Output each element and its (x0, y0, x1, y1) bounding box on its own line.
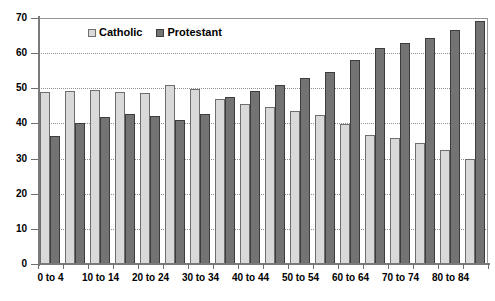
x-tick-1 (63, 264, 64, 269)
x-tick-8 (238, 264, 239, 269)
legend-entry-protestant: Protestant (156, 27, 221, 38)
x-tick-7 (213, 264, 214, 269)
chart-legend: Catholic Protestant (88, 27, 222, 38)
bar-catholic (240, 104, 250, 264)
bar-protestant (250, 91, 260, 264)
bar-catholic (315, 115, 325, 264)
bar-catholic (265, 107, 275, 264)
bar-catholic (190, 89, 200, 264)
legend-entry-catholic: Catholic (88, 27, 142, 38)
y-tick-label-60: 60 (0, 48, 27, 58)
bar-catholic (165, 85, 175, 264)
x-tick-10 (288, 264, 289, 269)
y-tick-label-30: 30 (0, 154, 27, 164)
y-tick-label-0: 0 (0, 259, 27, 269)
x-tick-label-40-to-44: 40 to 44 (223, 272, 279, 284)
x-tick-2 (88, 264, 89, 269)
bar-catholic (90, 90, 100, 264)
bar-protestant (350, 60, 360, 264)
y-tick-label-70: 70 (0, 13, 27, 23)
bar-protestant (400, 43, 410, 264)
bar-protestant (100, 117, 110, 264)
bar-protestant (375, 48, 385, 264)
y-tick-50 (31, 88, 38, 89)
x-tick-label-20-to-24: 20 to 24 (123, 272, 179, 284)
x-tick-4 (138, 264, 139, 269)
x-tick-17 (463, 264, 464, 269)
bar-catholic (65, 91, 75, 264)
legend-swatch-protestant-icon (156, 29, 164, 37)
x-tick-15 (413, 264, 414, 269)
legend-label-protestant: Protestant (167, 27, 221, 38)
x-tick-11 (313, 264, 314, 269)
x-tick-label-30-to-34: 30 to 34 (173, 272, 229, 284)
y-tick-40 (31, 123, 38, 124)
bar-protestant (300, 78, 310, 264)
y-tick-20 (31, 194, 38, 195)
bar-protestant (225, 97, 235, 264)
bar-protestant (425, 38, 435, 264)
bar-catholic (115, 92, 125, 264)
x-tick-13 (363, 264, 364, 269)
x-tick-label-70-to-74: 70 to 74 (373, 272, 429, 284)
y-tick-30 (31, 159, 38, 160)
x-tick-label-10-to-14: 10 to 14 (73, 272, 129, 284)
bar-catholic (465, 159, 475, 264)
bars-layer (38, 18, 488, 264)
bar-catholic (415, 143, 425, 264)
y-tick-label-50: 50 (0, 83, 27, 93)
x-tick-label-50-to-54: 50 to 54 (273, 272, 329, 284)
bar-catholic (40, 92, 50, 264)
x-tick-end (488, 264, 489, 269)
x-tick-6 (188, 264, 189, 269)
bar-protestant (75, 123, 85, 264)
bar-catholic (390, 138, 400, 264)
bar-chart: 010203040506070 0 to 410 to 1420 to 2430… (0, 0, 495, 301)
x-tick-3 (113, 264, 114, 269)
x-tick-9 (263, 264, 264, 269)
bar-protestant (125, 114, 135, 264)
bar-protestant (275, 85, 285, 264)
bar-catholic (440, 150, 450, 264)
x-axis-line (38, 263, 490, 265)
x-tick-5 (163, 264, 164, 269)
x-tick-label-60-to-64: 60 to 64 (323, 272, 379, 284)
bar-protestant (175, 120, 185, 264)
bar-protestant (50, 136, 60, 264)
y-tick-label-10: 10 (0, 224, 27, 234)
bar-catholic (215, 99, 225, 264)
y-tick-60 (31, 53, 38, 54)
bar-protestant (325, 72, 335, 264)
x-tick-12 (338, 264, 339, 269)
y-tick-label-40: 40 (0, 118, 27, 128)
bar-catholic (290, 111, 300, 264)
y-tick-label-20: 20 (0, 189, 27, 199)
y-tick-0 (31, 264, 38, 265)
legend-swatch-catholic-icon (88, 29, 96, 37)
bar-protestant (475, 21, 485, 264)
x-tick-label-80-to-84: 80 to 84 (423, 272, 479, 284)
legend-label-catholic: Catholic (99, 27, 142, 38)
y-tick-70 (31, 18, 38, 19)
bar-protestant (450, 30, 460, 264)
bar-protestant (200, 114, 210, 264)
bar-catholic (340, 124, 350, 264)
x-tick-label-0-to-4: 0 to 4 (23, 272, 79, 284)
bar-catholic (365, 135, 375, 264)
x-tick-14 (388, 264, 389, 269)
y-tick-10 (31, 229, 38, 230)
x-tick-16 (438, 264, 439, 269)
bar-catholic (140, 93, 150, 264)
bar-protestant (150, 116, 160, 264)
x-tick-0 (38, 264, 39, 269)
